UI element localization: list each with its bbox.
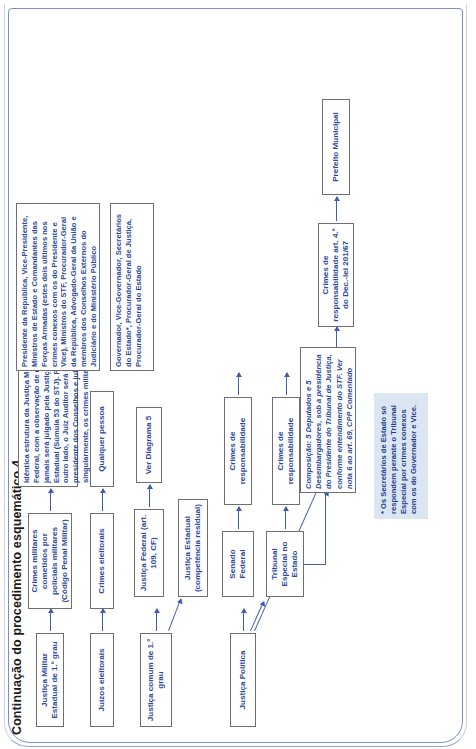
edge-crimes-resp-1-to-autoridades-federais [238,373,239,395]
node-justica-estadual[interactable]: Justiça Estadual (competência residual) [178,499,208,597]
edge-tribunal-to-crimes-resp-2 [285,507,286,529]
node-crimes-responsabilidade-municipal[interactable]: Crimes de responsabilidade art. 4.º do D… [318,223,354,327]
node-prefeito-municipal[interactable]: Prefeito Municipal [322,99,350,195]
edge-crimes-militares-to-identica [50,489,51,511]
node-qualquer-pessoa[interactable]: Qualquer pessoa [90,391,114,487]
diagram-page: Continuação do procedimento esquemático … [0,0,476,749]
node-autoridades-federais[interactable]: Presidente da República, Vice-Presidente… [16,203,100,371]
node-justica-federal[interactable]: Justiça Federal (art. 109, CF) [134,509,164,597]
node-justica-comum[interactable]: Justiça comum de 1.º grau [140,633,172,727]
node-ver-diagrama-5[interactable]: Ver Diagrama 5 [136,407,162,483]
node-crimes-responsabilidade-2[interactable]: Crimes de responsabilidade [272,397,300,505]
edge-crimes-resp-mun-to-prefeito [336,197,337,221]
edge-crimes-resp-2-to-autoridades-estaduais [286,373,287,395]
rotated-page-wrapper: Continuação do procedimento esquemático … [0,0,476,749]
edge-jme-to-crimes-militares [50,609,51,631]
footnote-secretarios: * Os Secretários de Estado só respondem … [374,393,428,519]
edge-tribunal-to-composicao-h [325,493,326,565]
node-senado-federal[interactable]: Senado Federal [222,531,254,597]
node-crimes-responsabilidade-1[interactable]: Crimes de responsabilidade [224,397,252,505]
edge-juizos-to-crimes-eleitorais [102,609,103,631]
node-crimes-eleitorais[interactable]: Crimes eleitorais [90,513,114,609]
node-composicao[interactable]: Composição: 5 Deputados e 5 Desembargado… [300,347,356,493]
edge-tribunal-to-composicao-arrow [325,493,326,494]
node-autoridades-estaduais[interactable]: Governador, Vice-Governador, Secretários… [110,203,154,371]
edge-politica-to-senado [243,609,244,631]
edge-comum-to-federal [156,609,157,631]
edge-crimes-eleitorais-to-qualquer [102,489,103,511]
node-juizos-eleitorais[interactable]: Juízos eleitorais [90,633,114,727]
node-crimes-militares[interactable]: Crimes militares cometidos por policiais… [28,513,72,609]
node-justica-militar-estadual[interactable]: Justiça Militar Estadual de 1.º grau [36,633,64,727]
page-title: Continuação do procedimento esquemático … [10,456,24,735]
edge-senado-to-crimes-resp-1 [238,507,239,529]
edge-tribunal-to-composicao-v [304,564,326,565]
node-justica-politica[interactable]: Justiça Política [230,633,256,727]
edge-federal-to-diagrama5 [149,485,150,507]
node-tribunal-especial[interactable]: Tribunal Especial no Estado [266,531,304,597]
